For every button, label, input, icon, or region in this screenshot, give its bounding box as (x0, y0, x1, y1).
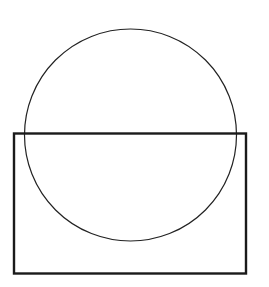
circle-shape (25, 29, 237, 241)
diagram-canvas (0, 0, 269, 287)
